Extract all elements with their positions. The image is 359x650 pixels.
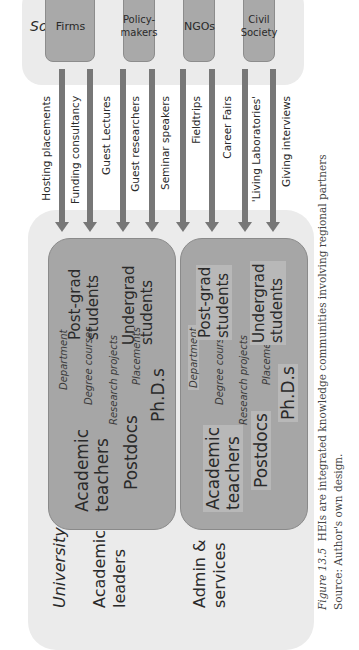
arrowhead-icon: [238, 222, 252, 232]
undergrad-students: Undergrad students: [250, 261, 286, 345]
arrow-flow: [180, 69, 186, 222]
figure-caption: Figure 13.5 HEIs are integrated knowledg…: [316, 154, 328, 610]
arrow-flow: [59, 69, 65, 222]
academic-teachers: Academic teachers: [72, 429, 112, 512]
flow-label: Giving interviews: [280, 96, 292, 204]
academic-teachers: Academic teachers: [203, 425, 243, 512]
flow-label: Seminar speakers: [159, 96, 171, 204]
row-label-admin-services: Admin & services: [190, 539, 230, 608]
arrowhead-icon: [205, 222, 219, 232]
actor-policy-makers: Policy- makers: [123, 0, 155, 62]
research-projects-label: Research projects: [108, 335, 119, 425]
phds: Ph.D.s: [148, 368, 168, 422]
postdocs: Postdocs: [121, 415, 141, 490]
arrowhead-icon: [145, 222, 159, 232]
arrowhead-icon: [55, 222, 69, 232]
actor-ngos: NGOs: [183, 0, 215, 62]
flow-label: Guest researchers: [129, 96, 141, 204]
arrow-flow: [149, 69, 155, 222]
figure-source: Source: Author's own design.: [332, 454, 344, 610]
research-projects-label: Research projects: [238, 335, 249, 425]
flow-label: Fieldtrips: [190, 96, 202, 204]
actor-civil-society: Civil Society: [243, 0, 275, 62]
flow-label: Hosting placements: [40, 96, 52, 204]
arrowhead-icon: [83, 222, 97, 232]
undergrad-students: Undergrad students: [120, 265, 156, 345]
flow-label: 'Living Laboratories': [250, 96, 262, 204]
arrowhead-icon: [266, 222, 280, 232]
flow-label: Career Fairs: [221, 96, 233, 204]
arrow-flow: [270, 69, 276, 222]
arrowhead-icon: [116, 222, 130, 232]
university-title: University: [50, 527, 69, 608]
actor-firms: Firms: [45, 0, 95, 62]
flow-label: Funding consultancy: [69, 96, 81, 204]
postgrad-students: Post-grad students: [196, 265, 232, 340]
postgrad-students: Post-grad students: [66, 269, 102, 340]
postdocs: Postdocs: [251, 411, 271, 490]
row-label-academic-leaders: Academic leaders: [90, 530, 130, 608]
flow-label: Guest Lectures: [100, 96, 112, 204]
arrow-flow: [209, 69, 215, 222]
arrowhead-icon: [176, 222, 190, 232]
arrow-flow: [120, 69, 126, 222]
arrow-flow: [87, 69, 93, 222]
phds: Ph.D.s: [278, 364, 298, 422]
arrow-flow: [242, 69, 248, 222]
